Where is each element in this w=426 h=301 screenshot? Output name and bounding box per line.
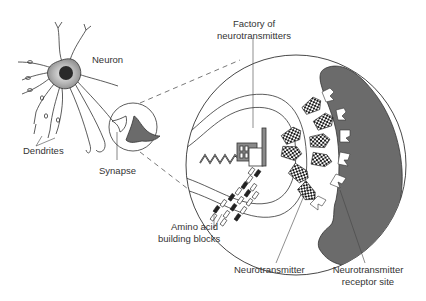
label-neuron: Neuron (92, 54, 123, 66)
label-receptor-line2: receptor site (326, 276, 410, 288)
label-factory-line2: neurotransmitters (212, 30, 296, 42)
label-amino-acid: Amino acid building blocks (158, 221, 218, 245)
neuron (18, 22, 122, 153)
label-receptor-site: Neurotransmitter receptor site (326, 264, 410, 288)
label-amino-line1: Amino acid (158, 221, 218, 233)
label-amino-line2: building blocks (158, 233, 218, 245)
neuron-synapse-diagram: Neuron Dendrites Synapse Factory of neur… (0, 0, 426, 301)
label-factory-line1: Factory of (212, 18, 296, 30)
label-factory: Factory of neurotransmitters (212, 18, 296, 42)
label-receptor-line1: Neurotransmitter (326, 264, 410, 276)
label-dendrites: Dendrites (23, 145, 64, 157)
synapse-small (109, 103, 160, 160)
label-neurotransmitter: Neurotransmitter (234, 264, 305, 276)
label-synapse: Synapse (99, 165, 136, 177)
